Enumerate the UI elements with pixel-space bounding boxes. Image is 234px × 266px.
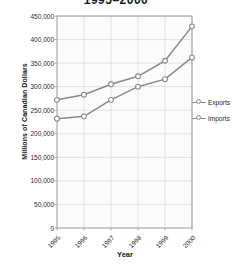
chart-figure: 1995–2000 Millions of Canadian Dollars 0… bbox=[0, 0, 234, 266]
legend-label: Imports bbox=[208, 115, 230, 122]
y-tick-label: 150,000 bbox=[8, 154, 54, 161]
y-tick-label: 200,000 bbox=[8, 130, 54, 137]
y-tick-label: 100,000 bbox=[8, 177, 54, 184]
chart-legend: Exports Imports bbox=[192, 94, 234, 126]
legend-item-imports[interactable]: Imports bbox=[192, 110, 234, 126]
y-tick-label: 0 bbox=[8, 225, 54, 232]
x-axis-title: Year bbox=[57, 250, 193, 259]
y-tick-label: 350,000 bbox=[8, 60, 54, 67]
legend-marker-icon bbox=[192, 97, 206, 107]
y-tick-label: 400,000 bbox=[8, 36, 54, 43]
y-tick-label: 250,000 bbox=[8, 107, 54, 114]
legend-item-exports[interactable]: Exports bbox=[192, 94, 234, 110]
legend-label: Exports bbox=[208, 99, 230, 106]
legend-marker-icon bbox=[192, 113, 206, 123]
y-axis-tick-labels: 050,000100,000150,000200,000250,000300,0… bbox=[4, 0, 54, 266]
y-tick-label: 450,000 bbox=[8, 13, 54, 20]
y-tick-label: 300,000 bbox=[8, 83, 54, 90]
y-tick-label: 50,000 bbox=[8, 201, 54, 208]
